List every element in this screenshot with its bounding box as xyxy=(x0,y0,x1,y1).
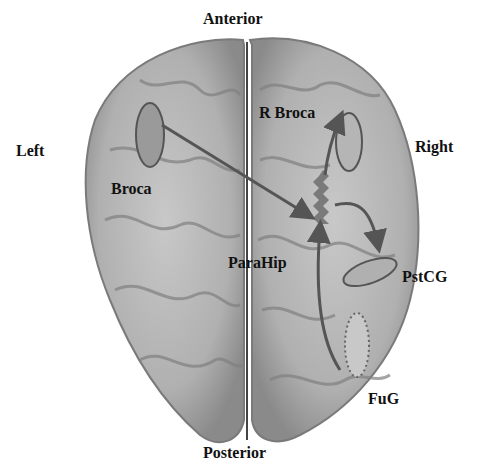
label-parahip: ParaHip xyxy=(228,254,287,272)
left-hemisphere xyxy=(86,39,244,442)
right-hemisphere xyxy=(250,38,418,441)
brain-diagram xyxy=(0,0,484,474)
label-pstcg: PstCG xyxy=(402,268,447,286)
broca-region xyxy=(136,103,164,167)
label-posterior: Posterior xyxy=(203,444,266,462)
label-broca: Broca xyxy=(111,180,152,198)
label-right: Right xyxy=(415,138,453,156)
fug-region xyxy=(345,313,369,377)
label-left: Left xyxy=(16,142,44,160)
label-r-broca: R Broca xyxy=(259,104,315,122)
label-anterior: Anterior xyxy=(203,10,263,28)
label-fug: FuG xyxy=(368,390,399,408)
